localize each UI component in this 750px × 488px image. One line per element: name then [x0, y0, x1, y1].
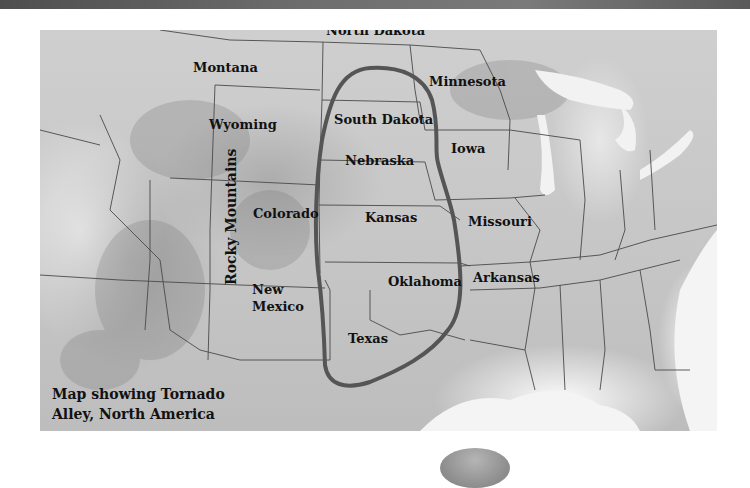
label-wyoming: Wyoming [209, 118, 277, 133]
globe-image-partial [440, 448, 510, 488]
label-kansas: Kansas [365, 211, 417, 226]
label-missouri: Missouri [468, 215, 532, 230]
label-arkansas: Arkansas [473, 271, 540, 286]
label-texas: Texas [348, 332, 388, 347]
map-caption: Map showing Tornado Alley, North America [52, 384, 225, 424]
label-iowa: Iowa [451, 142, 485, 157]
label-south-dakota: South Dakota [334, 113, 433, 128]
label-minnesota: Minnesota [429, 75, 506, 90]
label-montana: Montana [193, 61, 258, 76]
top-border-strip [0, 0, 750, 9]
label-oklahoma: Oklahoma [388, 275, 462, 290]
caption-line-2: Alley, North America [52, 404, 225, 424]
tornado-alley-map: Montana North Dakota Minnesota South Dak… [40, 30, 717, 431]
label-north-dakota: North Dakota [326, 30, 425, 39]
state-borders [40, 30, 717, 431]
label-rocky-mountains: Rocky Mountains [223, 149, 239, 285]
coastal-water [420, 230, 717, 431]
caption-line-1: Map showing Tornado [52, 384, 225, 404]
label-new-mexico-line1: New [252, 283, 283, 298]
label-new-mexico-line2: Mexico [252, 300, 304, 315]
great-lakes [535, 70, 693, 195]
label-nebraska: Nebraska [345, 154, 414, 169]
label-colorado: Colorado [253, 207, 319, 222]
